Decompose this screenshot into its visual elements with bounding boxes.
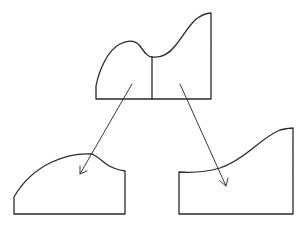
left-part-outline: [14, 154, 125, 214]
original-region-outline: [96, 13, 211, 99]
original-region: [96, 13, 211, 99]
right-part: [179, 128, 293, 214]
left-part: [14, 154, 125, 214]
diagram-canvas: [0, 0, 305, 227]
arrow-left: [80, 84, 132, 174]
right-part-outline: [179, 128, 293, 214]
